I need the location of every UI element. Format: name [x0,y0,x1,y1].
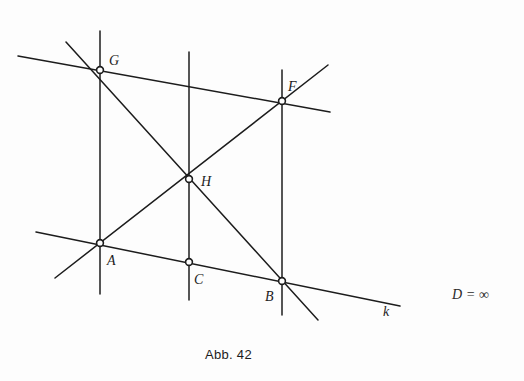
point-marker-f [279,98,286,105]
annotation-value: ∞ [479,287,489,302]
diagonal-through-A-H-F [55,65,328,278]
point-label-a: A [106,253,116,268]
line-labels-group: k [383,304,390,319]
point-marker-b [279,278,286,285]
annotation-relation: = [463,287,479,302]
point-label-f: F [287,79,297,94]
annotation-d-equals-infinity: D = ∞ [452,287,490,303]
point-label-c: C [194,272,204,287]
point-label-b: B [265,289,274,304]
figure-caption: Abb. 42 [205,347,252,362]
point-marker-g [97,67,104,74]
annotation-symbol: D [452,287,463,302]
line-label-k: k [383,304,390,319]
point-label-h: H [200,174,212,189]
line-k-through-A-C-B [36,232,400,306]
point-marker-c [186,259,193,266]
point-marker-h [186,176,193,183]
point-marker-a [97,240,104,247]
figure-abb-42: GFHACB k D = ∞ Abb. 42 [0,0,524,381]
geometry-drawing: GFHACB k [0,0,524,381]
point-label-g: G [109,53,119,68]
